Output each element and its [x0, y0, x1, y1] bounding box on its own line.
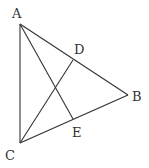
label-e: E	[72, 125, 82, 140]
segment-ab	[20, 24, 128, 95]
label-c: C	[5, 148, 15, 163]
label-a: A	[11, 6, 22, 21]
label-b: B	[132, 89, 142, 104]
diagram-svg: A B C D E	[0, 0, 149, 168]
label-d: D	[74, 42, 84, 57]
geometry-diagram: A B C D E	[0, 0, 149, 168]
